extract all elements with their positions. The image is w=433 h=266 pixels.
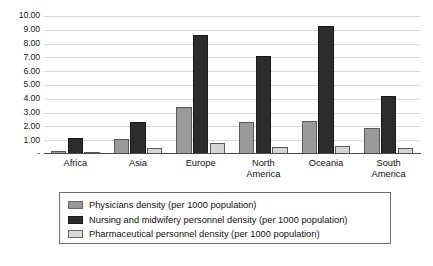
legend-swatch-icon bbox=[68, 201, 83, 209]
bar-group bbox=[302, 16, 351, 154]
legend-item-label: Pharmaceutical personnel density (per 10… bbox=[89, 229, 320, 239]
bar-group bbox=[51, 16, 100, 154]
bar bbox=[176, 107, 192, 154]
legend-swatch-icon bbox=[68, 230, 83, 238]
y-axis-tick-label: 7.00 bbox=[0, 53, 40, 62]
bar bbox=[364, 128, 380, 154]
x-axis-category-label: Asia bbox=[107, 158, 170, 169]
plot-area bbox=[44, 16, 420, 154]
bar bbox=[68, 138, 84, 154]
x-axis-line bbox=[44, 153, 421, 154]
bar bbox=[381, 96, 397, 154]
x-axis-category-label: Europe bbox=[169, 158, 232, 169]
y-axis-tick-label: 3.00 bbox=[0, 108, 40, 117]
bar bbox=[239, 122, 255, 154]
legend-item-label: Physicians density (per 1000 population) bbox=[89, 200, 256, 210]
bar bbox=[114, 139, 130, 154]
bar bbox=[130, 122, 146, 154]
legend-item-label: Nursing and midwifery personnel density … bbox=[89, 215, 347, 225]
y-axis-tick-label: 5.00 bbox=[0, 80, 40, 89]
legend-swatch-icon bbox=[68, 216, 83, 224]
bar-group bbox=[114, 16, 163, 154]
bar bbox=[318, 26, 334, 154]
bar-chart: -1.002.003.004.005.006.007.008.009.0010.… bbox=[0, 0, 433, 266]
legend-item: Pharmaceutical personnel density (per 10… bbox=[68, 227, 390, 241]
bar-group bbox=[364, 16, 413, 154]
legend-item: Physicians density (per 1000 population) bbox=[68, 198, 390, 212]
chart-legend: Physicians density (per 1000 population)… bbox=[59, 192, 391, 244]
y-axis-tick-label: 8.00 bbox=[0, 39, 40, 48]
bar bbox=[302, 121, 318, 154]
y-axis-tick-label: 4.00 bbox=[0, 94, 40, 103]
y-axis-tick-label: - bbox=[0, 149, 40, 158]
y-axis-tick-label: 9.00 bbox=[0, 25, 40, 34]
y-axis-tick-label: 1.00 bbox=[0, 136, 40, 145]
bar bbox=[256, 56, 272, 154]
y-axis-tick-label: 2.00 bbox=[0, 122, 40, 131]
bar-group bbox=[239, 16, 288, 154]
bar bbox=[193, 35, 209, 154]
y-axis-tick-label: 6.00 bbox=[0, 67, 40, 76]
x-axis-category-label: Oceania bbox=[295, 158, 358, 169]
y-axis-tick-label: 10.00 bbox=[0, 11, 40, 20]
x-axis-category-label: SouthAmerica bbox=[357, 158, 420, 179]
x-axis-category-label: NorthAmerica bbox=[232, 158, 295, 179]
legend-item: Nursing and midwifery personnel density … bbox=[68, 212, 390, 226]
x-axis-category-label: Africa bbox=[44, 158, 107, 169]
bar-group bbox=[176, 16, 225, 154]
